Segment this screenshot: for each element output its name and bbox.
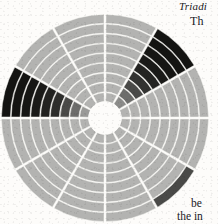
margin-body-line-1: be	[191, 197, 202, 209]
radial-matrix-chart	[0, 0, 218, 224]
margin-subtitle-text: Th	[190, 15, 204, 28]
margin-title-text: Triadi	[179, 1, 207, 13]
book-page-fragment: Triadi Th be the in	[0, 0, 218, 224]
margin-body-line-2: the in	[177, 210, 203, 222]
chart-center-hub	[88, 101, 121, 134]
chart-hub-circle	[88, 101, 121, 134]
